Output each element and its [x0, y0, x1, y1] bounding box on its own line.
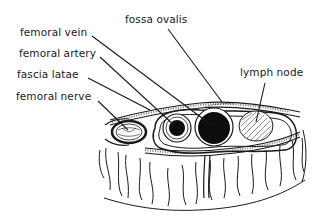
anatomy-diagram: femoral vein femoral artery fascia latae…	[0, 0, 320, 221]
label-femoral-vein: femoral vein	[20, 26, 87, 38]
label-femoral-artery: femoral artery	[19, 47, 96, 59]
muscle-base	[104, 180, 305, 210]
label-fascia-latae: fascia latae	[17, 68, 79, 80]
leader-fossa-ovalis	[168, 29, 222, 102]
lymph-node-shape	[239, 111, 273, 141]
femoral-nerve-shape	[105, 119, 146, 146]
label-femoral-nerve: femoral nerve	[16, 90, 91, 102]
label-fossa-ovalis: fossa ovalis	[125, 13, 187, 25]
leader-femoral-nerve	[98, 101, 128, 130]
leader-femoral-artery	[100, 57, 175, 126]
femoral-vein-shape	[195, 108, 233, 146]
label-lymph-node: lymph node	[240, 66, 303, 78]
